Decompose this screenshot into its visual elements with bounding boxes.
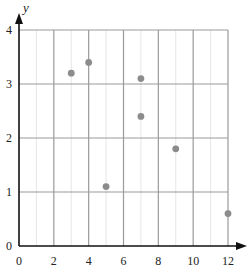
data-point (68, 70, 75, 77)
data-point (103, 183, 110, 190)
x-tick-label: 2 (51, 254, 57, 268)
x-axis-arrow-icon (236, 242, 247, 250)
x-tick-label: 4 (86, 254, 92, 268)
x-tick-label: 12 (222, 254, 234, 268)
y-tick-label: 0 (6, 239, 12, 253)
data-point (172, 145, 179, 152)
x-tick-label: 6 (121, 254, 127, 268)
y-tick-label: 3 (6, 77, 12, 91)
data-point (138, 75, 145, 82)
axes (15, 13, 247, 250)
major-grid (19, 30, 228, 246)
x-tick-label: 0 (16, 254, 22, 268)
y-tick-label: 2 (6, 131, 12, 145)
y-tick-label: 4 (6, 23, 12, 37)
x-tick-label: 10 (187, 254, 199, 268)
scatter-chart: 024681012 01234 y (0, 0, 249, 270)
data-point (85, 59, 92, 66)
y-tick-label: 1 (6, 185, 12, 199)
y-axis-label: y (21, 0, 29, 15)
data-point (225, 210, 232, 217)
x-tick-label: 8 (155, 254, 161, 268)
x-tick-labels: 024681012 (16, 254, 234, 268)
y-tick-labels: 01234 (6, 23, 12, 253)
data-point (138, 113, 145, 120)
y-axis-arrow-icon (15, 13, 23, 24)
